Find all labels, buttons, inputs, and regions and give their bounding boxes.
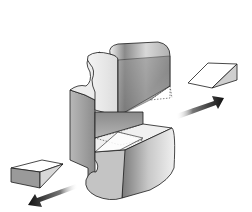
diagram-canvas: Wedge pieces removed from slotted block — [0, 0, 252, 212]
wedge-left-front — [11, 168, 40, 188]
diagram-svg — [0, 0, 252, 212]
spine-face — [70, 90, 95, 186]
wedge-left — [11, 160, 63, 188]
main-block — [70, 42, 175, 200]
upper-arm-side — [118, 56, 170, 116]
arrow-right — [176, 96, 224, 119]
wedge-right — [188, 63, 237, 88]
